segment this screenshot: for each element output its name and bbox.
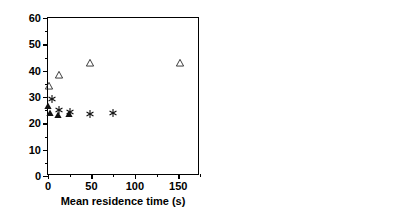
y-tick-label: 50: [29, 38, 41, 50]
data-point-asterisk: [109, 108, 118, 117]
plot-area-left: 0102030405060050100150Mean residence tim…: [47, 17, 199, 175]
x-tick-minor: [157, 174, 158, 177]
x-tick-minor: [113, 174, 114, 177]
data-point-open-triangle: [85, 58, 94, 67]
y-tick-label: 10: [29, 144, 41, 156]
x-tick-major: [178, 174, 179, 179]
data-point-open-triangle: [44, 81, 53, 90]
x-tick-major: [91, 174, 92, 179]
figure-scatter-cv-panels: CV (based on volume PSD) (%) 01020304050…: [0, 0, 410, 224]
x-axis-title: Mean residence time (s): [48, 195, 198, 207]
y-tick-minor: [45, 110, 48, 111]
data-point-asterisk: [48, 94, 57, 103]
y-tick-label: 40: [29, 65, 41, 77]
x-tick-label: 50: [85, 180, 97, 192]
panel-right-precipitation-time: 0102030405060050100150Precipitation time…: [205, 0, 410, 224]
x-tick-label: 100: [126, 180, 144, 192]
y-tick-label: 60: [29, 12, 41, 24]
y-tick-label: 0: [35, 170, 41, 182]
y-tick-major: [43, 44, 48, 45]
y-tick-major: [43, 150, 48, 151]
y-tick-minor: [45, 84, 48, 85]
data-point-asterisk: [65, 108, 74, 117]
y-tick-major: [43, 123, 48, 124]
y-tick-minor: [45, 58, 48, 59]
y-tick-major: [43, 97, 48, 98]
y-tick-minor: [45, 31, 48, 32]
y-tick-major: [43, 18, 48, 19]
x-tick-minor: [70, 174, 71, 177]
data-point-filled-triangle: [64, 110, 73, 119]
x-tick-major: [48, 174, 49, 179]
data-point-asterisk: [55, 105, 64, 114]
data-point-open-triangle: [176, 59, 185, 68]
x-tick-minor: [200, 174, 201, 177]
panel-left-mean-residence-time: CV (based on volume PSD) (%) 01020304050…: [0, 0, 205, 224]
y-tick-label: 20: [29, 117, 41, 129]
x-tick-label: 0: [45, 180, 51, 192]
data-point-filled-triangle: [54, 111, 63, 120]
data-point-asterisk: [85, 109, 94, 118]
y-tick-minor: [45, 137, 48, 138]
x-tick-label: 150: [169, 180, 187, 192]
x-tick-major: [135, 174, 136, 179]
y-tick-minor: [45, 163, 48, 164]
y-tick-label: 30: [29, 91, 41, 103]
data-point-open-triangle: [55, 70, 64, 79]
y-tick-major: [43, 71, 48, 72]
